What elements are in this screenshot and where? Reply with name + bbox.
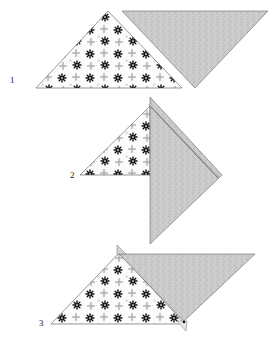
step-label-1: 1 — [10, 75, 15, 85]
quilt-diagram: 1 2 3 — [0, 0, 275, 343]
dog-ear-bottom — [177, 321, 187, 331]
step-label-2: 2 — [70, 170, 75, 180]
step-1: 1 — [10, 11, 268, 88]
dog-ear-top — [117, 245, 126, 254]
print-triangle — [80, 106, 150, 175]
step-2: 2 — [70, 97, 222, 244]
corner-point — [183, 321, 186, 324]
step-label-3: 3 — [39, 318, 44, 328]
step-3: 3 — [39, 245, 255, 331]
